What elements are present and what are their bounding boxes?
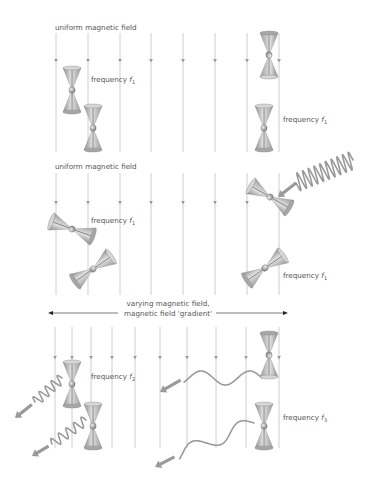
- field-arrowhead-icon: [86, 59, 90, 63]
- nuclear-spin-icon: [68, 248, 118, 290]
- field-arrowhead-icon: [149, 59, 153, 63]
- field-arrowhead-icon: [89, 356, 93, 360]
- nuclear-spin-icon: [84, 104, 102, 152]
- frequency-label-text: frequency: [91, 216, 127, 225]
- nmr-spin-diagram: [0, 0, 372, 484]
- field-arrowhead-icon: [244, 356, 248, 360]
- field-arrowhead-icon: [181, 59, 185, 63]
- field-arrowhead-icon: [149, 201, 153, 205]
- frequency-label-text: frequency: [283, 413, 319, 422]
- field-arrowhead-icon: [181, 201, 185, 205]
- panel-title: varying magnetic field,magnetic field 'g…: [108, 299, 228, 319]
- frequency-subscript: 1: [324, 275, 327, 281]
- field-arrowhead-icon: [158, 356, 162, 360]
- rf-wave-icon: [296, 152, 353, 190]
- rf-wave-icon: [180, 421, 254, 459]
- nuclear-spin-icon: [84, 402, 102, 450]
- nuclear-spin-icon: [245, 177, 296, 217]
- panel-title-line: magnetic field 'gradient': [108, 309, 228, 319]
- frequency-subscript: 2: [132, 376, 135, 382]
- nuclear-spin-icon: [260, 331, 278, 379]
- field-arrowhead-icon: [185, 356, 189, 360]
- frequency-label: frequency f1: [283, 115, 327, 125]
- rf-wave-icon: [33, 376, 62, 402]
- emission-arrow-icon: [160, 380, 181, 393]
- rf-wave-icon: [51, 417, 86, 444]
- nuclear-spin-icon: [63, 360, 81, 408]
- frequency-label: frequency f3: [283, 413, 327, 423]
- panel-title: uniform magnetic field: [55, 23, 137, 32]
- frequency-label: frequency f1: [91, 75, 135, 85]
- field-arrowhead-icon: [245, 201, 249, 205]
- nuclear-spin-icon: [46, 212, 97, 245]
- field-arrowhead-icon: [277, 59, 281, 63]
- frequency-label-text: frequency: [283, 115, 319, 124]
- nuclear-spin-icon: [260, 31, 278, 79]
- emission-arrow-icon: [32, 446, 49, 456]
- frequency-subscript: 1: [132, 79, 135, 85]
- rf-wave-icon: [184, 371, 262, 385]
- frequency-subscript: 1: [324, 119, 327, 125]
- field-arrowhead-icon: [54, 59, 58, 63]
- field-arrowhead-icon: [214, 356, 218, 360]
- field-arrowhead-icon: [118, 59, 122, 63]
- field-arrowhead-icon: [213, 201, 217, 205]
- nuclear-spin-icon: [240, 247, 290, 289]
- panel-title-line: varying magnetic field,: [108, 299, 228, 309]
- field-arrowhead-icon: [133, 356, 137, 360]
- frequency-label: frequency f2: [91, 372, 135, 382]
- field-arrowhead-icon: [86, 201, 90, 205]
- frequency-subscript: 3: [324, 417, 327, 423]
- nuclear-spin-icon: [255, 104, 273, 152]
- frequency-label-text: frequency: [91, 372, 127, 381]
- frequency-label: frequency f1: [91, 216, 135, 226]
- frequency-label: frequency f1: [283, 271, 327, 281]
- frequency-subscript: 1: [132, 220, 135, 226]
- panel-title: uniform magnetic field: [55, 162, 137, 171]
- field-arrowhead-icon: [213, 59, 217, 63]
- field-arrowhead-icon: [277, 356, 281, 360]
- nuclear-spin-icon: [63, 66, 81, 114]
- emission-arrow-icon: [15, 404, 32, 418]
- emission-arrow-icon: [155, 457, 174, 468]
- field-arrowhead-icon: [110, 356, 114, 360]
- frequency-label-text: frequency: [91, 75, 127, 84]
- field-arrowhead-icon: [70, 356, 74, 360]
- field-arrowhead-icon: [53, 356, 57, 360]
- emission-arrow-icon: [278, 183, 296, 197]
- field-arrowhead-icon: [54, 201, 58, 205]
- frequency-label-text: frequency: [283, 271, 319, 280]
- field-arrowhead-icon: [245, 59, 249, 63]
- nuclear-spin-icon: [255, 402, 273, 450]
- field-arrowhead-icon: [118, 201, 122, 205]
